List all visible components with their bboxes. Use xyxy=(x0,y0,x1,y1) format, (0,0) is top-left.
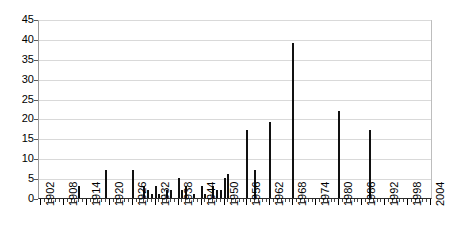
x-tick-minor xyxy=(197,199,198,202)
x-tick-minor xyxy=(128,199,129,202)
x-tick-minor xyxy=(59,199,60,202)
y-tick-mark xyxy=(34,20,38,21)
y-tick-label: 25 xyxy=(4,94,34,104)
bar xyxy=(155,186,157,198)
x-tick-minor xyxy=(220,199,221,202)
x-tick-minor xyxy=(105,199,106,202)
x-tick-minor xyxy=(312,199,313,202)
x-tick-major xyxy=(246,199,247,205)
y-tick-label: 30 xyxy=(4,74,34,84)
bar xyxy=(246,130,248,198)
x-tick-label: 1962 xyxy=(273,182,285,206)
gridline xyxy=(39,100,431,101)
y-tick-label: 35 xyxy=(4,54,34,64)
x-tick-major xyxy=(132,199,133,205)
x-tick-minor xyxy=(289,199,290,202)
x-tick-label: 1938 xyxy=(182,182,194,206)
y-tick-mark xyxy=(34,139,38,140)
x-tick-major xyxy=(338,199,339,205)
x-tick-major xyxy=(224,199,225,205)
y-tick-label: 20 xyxy=(4,113,34,123)
y-tick-mark xyxy=(34,100,38,101)
x-tick-label: 1974 xyxy=(319,182,331,206)
x-tick-label: 2004 xyxy=(434,182,446,206)
x-tick-minor xyxy=(243,199,244,202)
x-tick-major xyxy=(86,199,87,205)
x-tick-major xyxy=(178,199,179,205)
y-tick-label: 5 xyxy=(4,173,34,183)
x-tick-major xyxy=(155,199,156,205)
x-tick-label: 1926 xyxy=(136,182,148,206)
bar xyxy=(269,122,271,198)
x-tick-major xyxy=(384,199,385,205)
bar xyxy=(338,111,340,199)
bar xyxy=(201,186,203,198)
x-tick-major xyxy=(63,199,64,205)
plot-area xyxy=(38,20,432,199)
x-tick-label: 1992 xyxy=(388,182,400,206)
x-tick-minor xyxy=(380,199,381,202)
bar xyxy=(132,170,134,198)
x-tick-major xyxy=(407,199,408,205)
x-tick-minor xyxy=(266,199,267,202)
x-tick-label: 1956 xyxy=(250,182,262,206)
x-tick-label: 1968 xyxy=(296,182,308,206)
y-tick-label: 45 xyxy=(4,14,34,24)
x-tick-label: 1914 xyxy=(90,182,102,206)
x-tick-label: 1920 xyxy=(113,182,125,206)
y-tick-mark xyxy=(34,119,38,120)
bar xyxy=(292,43,294,198)
gridline xyxy=(39,40,431,41)
gridline xyxy=(39,179,431,180)
x-tick-major xyxy=(430,199,431,205)
x-tick-label: 1944 xyxy=(205,182,217,206)
x-tick-major xyxy=(292,199,293,205)
bar xyxy=(220,190,222,198)
y-tick-label: 0 xyxy=(4,193,34,203)
y-tick-mark xyxy=(34,179,38,180)
x-tick-minor xyxy=(151,199,152,202)
y-tick-mark xyxy=(34,159,38,160)
gridline xyxy=(39,80,431,81)
x-tick-major xyxy=(315,199,316,205)
gridline xyxy=(39,139,431,140)
bar-chart: 051015202530354045 190219081914192019261… xyxy=(0,0,452,248)
bar xyxy=(178,178,180,198)
x-tick-minor xyxy=(82,199,83,202)
x-tick-major xyxy=(109,199,110,205)
x-tick-label: 1932 xyxy=(159,182,171,206)
x-axis-labels: 1902190819141920192619321938194419501956… xyxy=(38,206,432,248)
x-tick-label: 1902 xyxy=(44,182,56,206)
x-tick-major xyxy=(201,199,202,205)
x-tick-minor xyxy=(426,199,427,202)
x-tick-minor xyxy=(174,199,175,202)
x-tick-label: 1986 xyxy=(365,182,377,206)
y-axis: 051015202530354045 xyxy=(0,0,34,220)
bar xyxy=(151,194,153,198)
gridline xyxy=(39,20,431,21)
x-tick-major xyxy=(40,199,41,205)
x-tick-label: 1950 xyxy=(228,182,240,206)
gridline xyxy=(39,119,431,120)
x-tick-major xyxy=(269,199,270,205)
x-tick-minor xyxy=(357,199,358,202)
y-tick-mark xyxy=(34,199,38,200)
gridline xyxy=(39,159,431,160)
bar xyxy=(105,170,107,198)
y-tick-mark xyxy=(34,60,38,61)
y-tick-mark xyxy=(34,40,38,41)
x-tick-minor xyxy=(403,199,404,202)
y-tick-label: 15 xyxy=(4,133,34,143)
x-tick-label: 1998 xyxy=(411,182,423,206)
y-tick-label: 10 xyxy=(4,153,34,163)
y-tick-label: 40 xyxy=(4,34,34,44)
x-tick-minor xyxy=(334,199,335,202)
x-tick-label: 1908 xyxy=(67,182,79,206)
x-tick-label: 1980 xyxy=(342,182,354,206)
gridline xyxy=(39,60,431,61)
y-tick-mark xyxy=(34,80,38,81)
bar xyxy=(224,178,226,198)
x-tick-major xyxy=(361,199,362,205)
